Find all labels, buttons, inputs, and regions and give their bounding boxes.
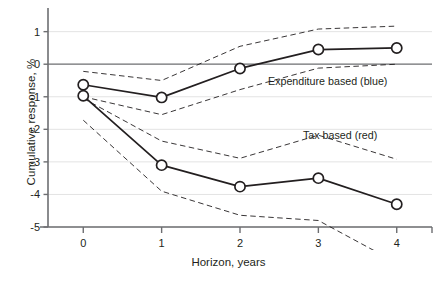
data-point-marker (78, 91, 88, 101)
y-axis-label: Cumulative response, % (25, 47, 37, 197)
x-tick-label: 1 (159, 237, 165, 249)
data-point-marker (78, 80, 88, 90)
x-tick-label: 2 (237, 237, 243, 249)
data-point-marker (392, 199, 402, 209)
y-tick-label: -5 (30, 221, 40, 233)
x-tick-label: 4 (394, 237, 400, 249)
series-markers-group (78, 43, 402, 209)
figure-caption (6, 277, 436, 284)
data-point-marker (235, 182, 245, 192)
data-point-marker (235, 63, 245, 73)
y-axis-label-wrap: Cumulative response, % (0, 0, 22, 244)
data-point-marker (157, 92, 167, 102)
axes-group (40, 8, 432, 233)
x-tick-labels-group: 01234 (80, 237, 400, 249)
data-point-marker (157, 160, 167, 170)
x-axis-label-text: Horizon, years (191, 256, 265, 268)
x-axis-label: Horizon, years (0, 256, 437, 268)
y-tick-label: 1 (34, 26, 40, 38)
data-point-marker (392, 43, 402, 53)
x-tick-label: 3 (315, 237, 321, 249)
data-point-marker (313, 44, 323, 54)
series-annotation-tax: Tax based (red) (303, 129, 377, 141)
figure-container: Cumulative response, % 10-1-2-3-4-5 0123… (0, 0, 437, 284)
chart-plot-area: 10-1-2-3-4-5 01234 (0, 0, 437, 250)
data-point-marker (313, 173, 323, 183)
series-annotation-expenditure: Expenditure based (blue) (268, 75, 387, 87)
x-tick-label: 0 (80, 237, 86, 249)
